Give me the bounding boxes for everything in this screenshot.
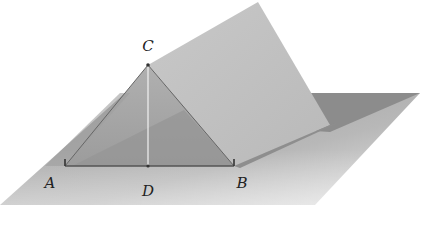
label-a: A — [43, 174, 56, 192]
label-d: D — [141, 182, 154, 200]
point-c — [146, 63, 150, 67]
label-c: C — [142, 37, 154, 55]
label-b: B — [235, 174, 247, 192]
geometry-diagram: C A B D — [0, 0, 434, 227]
point-d — [146, 164, 149, 167]
